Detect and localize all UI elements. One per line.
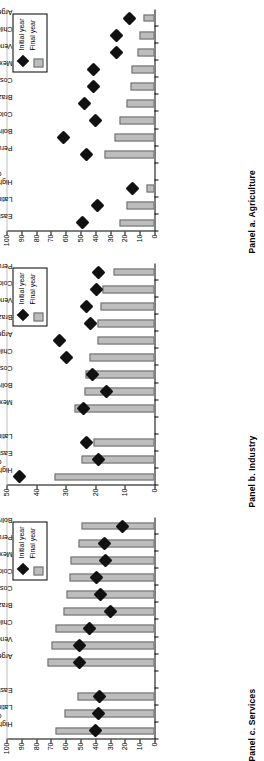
x-label-panel-a-12: Argentina [0,7,12,15]
panel-a: Panel a. Agriculture01020304050607080901… [0,0,264,253]
panel-c-y-tick-label: 40 [91,742,98,750]
marker-panel-a-9 [86,62,100,76]
marker-panel-b-11 [89,282,103,296]
panel-a-x-tick [154,93,158,94]
legend-bar-icon [33,566,43,575]
legend-label-final-year: Final year [27,272,36,304]
panel-a-y-tick-label: 30 [106,234,113,242]
x-label-panel-c-12: Bolivia [0,515,12,523]
panel-c-x-tick [154,550,158,551]
panel-b-x-tick [154,279,158,280]
panel-a-x-tick [154,162,158,163]
marker-panel-b-0 [12,469,26,483]
bar-panel-c-5 [51,641,154,649]
x-label-panel-c-6: Chile [0,617,12,625]
panel-c-x-tick [154,721,158,722]
panel-b-y-tick-label: 10 [121,488,128,496]
x-label-panel-b-9: Brazil [0,312,12,320]
marker-panel-a-0 [75,215,89,229]
panel-b-x-tick [154,296,158,297]
panel-a-x-tick [154,25,158,26]
marker-panel-c-1 [91,706,105,720]
x-label-panel-c-1: Latin America [0,702,12,710]
bar-panel-b-11 [102,285,154,293]
legend-bar-icon [33,58,43,67]
panel-a-y-tick-label: 20 [121,234,128,242]
panel-a-x-tick [154,145,158,146]
panel-b-plot-area: 01020304050High-incomecountriesEast Asia… [6,263,154,485]
marker-panel-a-10 [109,45,123,59]
x-label-panel-a-4: Peru [0,143,12,151]
marker-panel-b-7 [59,350,73,364]
marker-panel-a-12 [122,10,136,24]
panel-a-y-tick-label: 60 [62,234,69,242]
bar-panel-a-6 [119,116,154,124]
x-label-panel-b-4: Mexico [0,397,12,405]
panel-c-x-tick [154,738,158,739]
marker-panel-a-6 [88,113,102,127]
marker-panel-c-11 [97,536,111,550]
x-label-panel-a-9: Mexico [0,58,12,66]
x-label-panel-c-2: East Asia [0,685,12,693]
marker-panel-a-1 [90,198,104,212]
marker-panel-a-11 [109,28,123,42]
bar-panel-a-1 [126,201,154,209]
panel-a-x-tick [154,110,158,111]
panel-a-title: Panel a. Agriculture [246,169,256,253]
x-label-panel-a-6: Colombia [0,109,12,117]
panel-a-x-tick [154,213,158,214]
panel-a-y-tick-label: 90 [17,234,24,242]
legend-bar-icon [33,312,43,321]
panel-c-y-tick-label: 60 [62,742,69,750]
marker-panel-a-7 [76,96,90,110]
panel-c: Panel c. Services0102030405060708090100H… [0,508,264,761]
marker-panel-c-5 [72,638,86,652]
panel-b-y-tick-label: 50 [3,488,10,496]
panel-a-y-tick-label: 50 [77,234,84,242]
panel-c-x-tick [154,584,158,585]
panel-b-x-tick [154,399,158,400]
marker-panel-c-4 [72,655,86,669]
bar-panel-c-4 [47,658,154,666]
panel-a-x-tick [154,76,158,77]
panel-c-y-tick-label: 10 [136,742,143,750]
marker-panel-c-7 [103,604,117,618]
bar-panel-a-10 [137,48,154,56]
panel-a-x-tick [154,179,158,180]
x-label-panel-b-5: Bolivia [0,380,12,388]
x-label-panel-a-10: Venezuela [0,41,12,49]
panel-c-y-tick-label: 50 [77,742,84,750]
panel-c-y-tick-label: 80 [32,742,39,750]
panel-b-x-tick [154,467,158,468]
panel-b-x-tick [154,484,158,485]
marker-panel-c-10 [98,553,112,567]
marker-panel-b-12 [91,264,105,278]
x-label-panel-b-6: Costa Rica [0,363,12,371]
bar-panel-c-6 [55,624,154,632]
x-label-panel-c-5: Venezuela [0,634,12,642]
x-label-panel-a-5: Bolivia [0,126,12,134]
marker-panel-b-8 [52,333,66,347]
panel-c-y-tick-label: 100 [3,742,10,754]
bar-panel-c-2 [77,692,154,700]
x-label-panel-a-11: Chile [0,24,12,32]
x-label-panel-a-1: Latin America [0,194,12,202]
panel-b-x-tick [154,313,158,314]
x-label-panel-a-8: Costa Rica [0,75,12,83]
panel-c-plot-area: 0102030405060708090100High-incomecountri… [6,517,154,739]
x-label-panel-b-2: Latin America [0,431,12,439]
x-label-panel-a-0: East Asia [0,211,12,219]
bar-panel-a-8 [130,82,154,90]
legend-label-initial-year: Initial year [16,18,25,50]
panel-b: Panel b. Industry01020304050High-incomec… [0,254,264,507]
bar-panel-b-9 [97,319,154,327]
x-label-panel-c-10: Mexico [0,549,12,557]
panel-b-y-tick-label: 40 [32,488,39,496]
bar-panel-b-10 [100,302,154,310]
panel-c-x-tick [154,601,158,602]
panel-c-y-tick-label: 90 [17,742,24,750]
figure-canvas: Panel c. Services0102030405060708090100H… [0,0,264,761]
panel-c-legend: Initial yearFinal year [12,521,47,580]
bar-panel-b-8 [97,336,154,344]
panel-b-x-tick [154,364,158,365]
